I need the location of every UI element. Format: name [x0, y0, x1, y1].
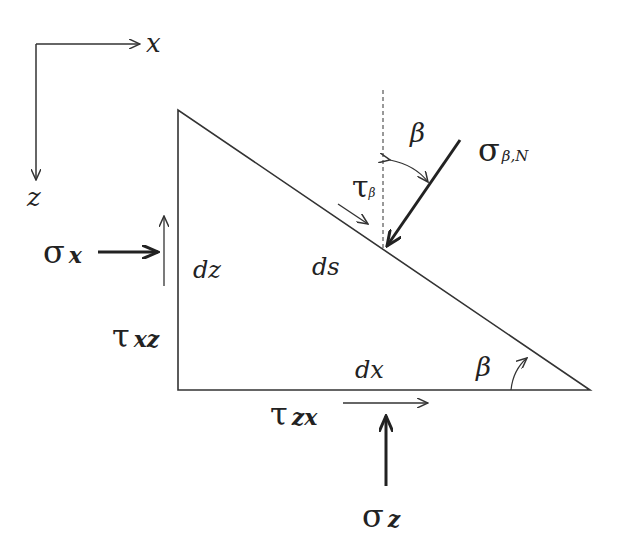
beta-top-label: β [410, 120, 425, 146]
beta-arc-top [390, 160, 428, 182]
tau-zx-label: τzx [270, 398, 317, 430]
beta-angle-label: β [476, 354, 491, 380]
sigma-z-label: σz [362, 500, 400, 532]
coordinate-axes [36, 44, 140, 180]
ds-label: ds [312, 255, 340, 279]
sigma-beta-n-label: σβ,N [478, 134, 528, 166]
dz-label: dz [193, 258, 221, 282]
tau-xz-label: τxz [112, 320, 159, 352]
sigma-x-label: σx [43, 236, 82, 268]
beta-arc-bottom [511, 358, 527, 390]
z-axis-label: z [27, 184, 41, 210]
dx-label: dx [355, 358, 384, 382]
stress-element-diagram: x z dz ds dx β β σx τxz τzx σz σβ,N τβ [0, 0, 624, 554]
tau-beta-label: τβ [352, 172, 376, 202]
x-axis-label: x [146, 30, 161, 56]
sigma-beta-n-arrow [387, 140, 460, 246]
